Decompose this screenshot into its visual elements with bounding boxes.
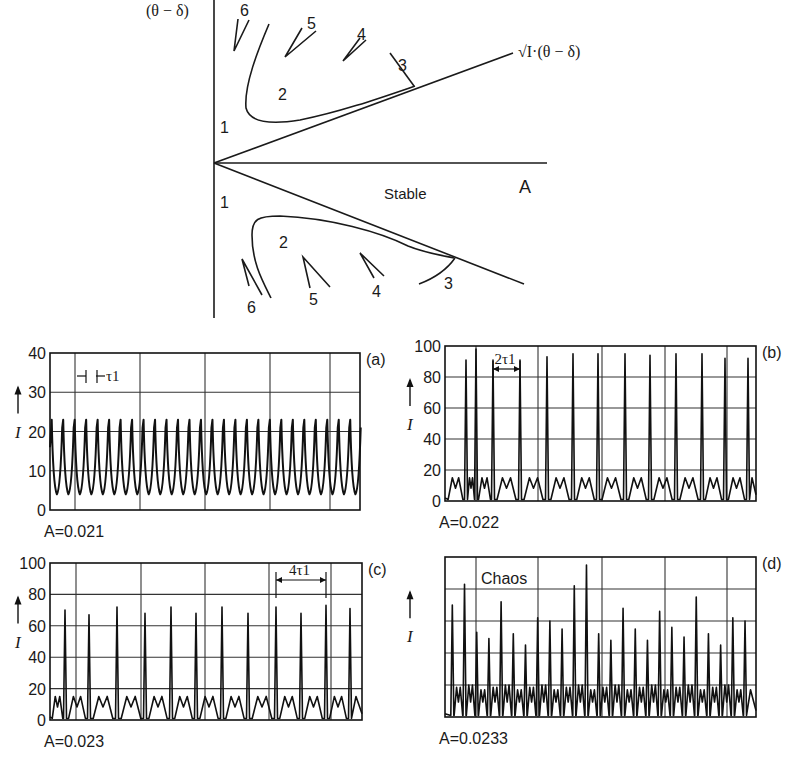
region-label-3-upper: 3: [398, 57, 407, 74]
lower-region-5-wedge: [303, 257, 330, 288]
region-label-6-upper: 6: [240, 2, 249, 19]
region-label-1-upper: 1: [220, 119, 229, 136]
panel-c: 020406080100I(c)A=0.0234τ1: [14, 555, 387, 750]
region-label-5-lower: 5: [309, 291, 318, 308]
y-axis-label: I: [14, 633, 22, 652]
parameter-caption: A=0.021: [44, 523, 104, 540]
signal-trace: [50, 605, 362, 718]
signal-trace: [445, 565, 756, 715]
panel-label: (a): [366, 351, 386, 368]
y-tick-label: 20: [423, 462, 441, 479]
y-tick-label: 0: [37, 712, 46, 729]
chaos-label: Chaos: [481, 570, 527, 587]
y-tick-label: 20: [28, 681, 46, 698]
lower-region-6-wedge: [242, 259, 262, 295]
y-axis-label: I: [406, 415, 414, 434]
region-label-4-lower: 4: [372, 283, 381, 300]
lower-region-2-curve: [252, 216, 454, 298]
upper-boundary-line: [214, 53, 513, 163]
diagram-labels: (θ − δ) √I·(θ − δ) A Stable 1 2 3 4 5 6 …: [146, 2, 580, 316]
y-axis-label: I: [14, 423, 22, 442]
y-tick-label: 10: [28, 463, 46, 480]
region-label-2-upper: 2: [278, 86, 287, 103]
y-tick-label: 40: [423, 431, 441, 448]
region-label-2-lower: 2: [279, 234, 288, 251]
y-axis-label: I: [406, 627, 414, 646]
region-label-5-upper: 5: [307, 15, 316, 32]
y-tick-label: 60: [28, 618, 46, 635]
y-axis-label: (θ − δ): [146, 2, 189, 20]
upper-region-2-curve: [246, 24, 415, 122]
arrow-head-icon: [407, 590, 414, 599]
signal-trace: [445, 349, 756, 499]
y-tick-label: 60: [423, 400, 441, 417]
y-tick-label: 100: [414, 338, 441, 355]
y-tick-label: 80: [28, 586, 46, 603]
panel-a: 010203040I(a)A=0.021τ1: [14, 345, 386, 540]
figure: (θ − δ) √I·(θ − δ) A Stable 1 2 3 4 5 6 …: [0, 0, 789, 770]
lower-region-4-wedge: [360, 253, 384, 278]
region-label-3-lower: 3: [444, 275, 453, 292]
panel-label: (b): [762, 344, 782, 361]
y-tick-label: 40: [28, 649, 46, 666]
y-tick-label: 40: [28, 345, 46, 362]
panel-label: (c): [368, 561, 387, 578]
panel-b: 020406080100I(b)A=0.0222τ1: [406, 338, 782, 531]
plot-frame: [50, 563, 362, 720]
boundary-label: √I·(θ − δ): [518, 43, 580, 61]
upper-region-5-wedge: [285, 28, 316, 57]
parameter-caption: A=0.023: [44, 733, 104, 750]
region-label-1-lower: 1: [220, 194, 229, 211]
upper-region-6-wedge: [234, 19, 249, 51]
panel-d: I(d)A=0.0233Chaos: [406, 555, 782, 747]
panel-label: (d): [762, 555, 782, 572]
y-tick-label: 80: [423, 369, 441, 386]
lower-boundary-line: [214, 163, 524, 284]
time-series-panels: 010203040I(a)A=0.021τ1020406080100I(b)A=…: [14, 338, 782, 750]
arrow-head-icon: [15, 596, 22, 605]
period-annotation: 2τ1: [495, 351, 516, 367]
region-label-4-upper: 4: [357, 26, 366, 43]
parameter-caption: A=0.0233: [439, 730, 508, 747]
y-tick-label: 0: [432, 493, 441, 510]
y-tick-label: 100: [19, 555, 46, 572]
arrow-head-icon: [407, 378, 414, 387]
stability-diagram: [214, 0, 547, 318]
y-tick-label: 30: [28, 384, 46, 401]
region-label-6-lower: 6: [247, 299, 256, 316]
y-tick-label: 0: [37, 502, 46, 519]
stable-label: Stable: [384, 185, 427, 202]
y-tick-label: 20: [28, 424, 46, 441]
period-annotation: τ1: [106, 368, 120, 384]
x-axis-label: A: [519, 177, 531, 197]
arrow-head-icon: [15, 386, 22, 395]
period-annotation: 4τ1: [289, 562, 310, 578]
parameter-caption: A=0.022: [439, 514, 499, 531]
